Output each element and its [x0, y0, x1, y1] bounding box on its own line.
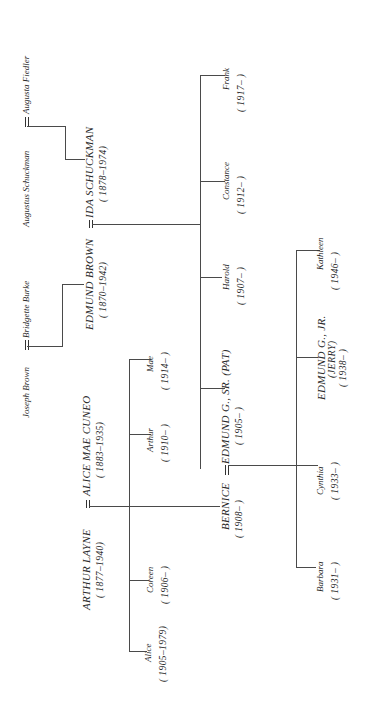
person-alice: Alice [144, 644, 153, 663]
person-augusta-fiedler: Augusta Fiedler [22, 56, 31, 114]
line [296, 250, 297, 568]
years-harold: ( 1907– ) [237, 267, 247, 305]
line [62, 284, 84, 285]
person-kathleen: Kathleen [316, 238, 325, 271]
line [65, 159, 85, 160]
years-arthur: ( 1910– ) [161, 424, 171, 462]
person-augustus-schuckman: Augustus Schuckman [22, 151, 31, 227]
years-alice-mae-cuneo: ( 1883–1935) [96, 422, 106, 478]
years-arthur-layne: ( 1877–1940) [96, 542, 106, 598]
person-joseph-brown: Joseph Brown [22, 367, 31, 418]
person-barbara: Barbara [316, 561, 325, 592]
years-coreen: ( 1906– ) [161, 566, 171, 604]
person-constance: Constance [222, 162, 231, 200]
years-edmund-brown: ( 1870–1942) [99, 262, 109, 318]
marriage-joseph-bridgette [25, 340, 29, 350]
marriage-bernice-edmund-sr [225, 465, 229, 475]
years-bernice: ( 1908– ) [235, 500, 245, 538]
years-edmund-g-sr: ( 1905– ) [235, 407, 245, 445]
years-constance: ( 1912– ) [237, 176, 247, 214]
person-harold: Harold [222, 264, 231, 290]
years-alice: ( 1905–1979) [159, 626, 169, 682]
years-ida-schuckman: ( 1878–1974) [99, 146, 109, 202]
person-bernice: BERNICE [220, 483, 231, 530]
line [27, 346, 62, 347]
line [296, 567, 316, 568]
nickname-jerry: (JERRY) [327, 340, 337, 378]
person-ida-schuckman: IDA SCHUCKMAN [84, 127, 95, 218]
person-edmund-g-sr: EDMUND G., SR. (PAT) [220, 349, 231, 464]
years-barbara: ( 1931– ) [331, 562, 341, 600]
person-edmund-brown: EDMUND BROWN [84, 239, 95, 330]
line [129, 359, 130, 651]
person-alice-mae-cuneo: ALICE MAE CUNEO [81, 396, 92, 496]
person-arthur-layne: ARTHUR LAYNE [81, 529, 92, 610]
years-kathleen: ( 1946– ) [331, 252, 341, 290]
years-mae: ( 1914– ) [161, 352, 171, 390]
line [200, 75, 201, 469]
years-frank: ( 1917– ) [237, 74, 247, 112]
person-frank: Frank [222, 68, 231, 90]
line [65, 126, 66, 160]
line [200, 277, 222, 278]
years-edmund-g-jr: ( 1938– ) [339, 349, 349, 387]
line [92, 224, 201, 225]
line [89, 506, 220, 507]
line [27, 126, 65, 127]
person-cynthia: Cynthia [316, 467, 325, 496]
person-arthur: Arthur [146, 428, 155, 452]
years-cynthia: ( 1933– ) [331, 462, 341, 500]
person-bridgette-burke: Bridgette Burke [22, 281, 31, 338]
person-coreen: Coreen [146, 567, 155, 593]
line [62, 284, 63, 347]
person-mae: Mae [146, 356, 155, 372]
